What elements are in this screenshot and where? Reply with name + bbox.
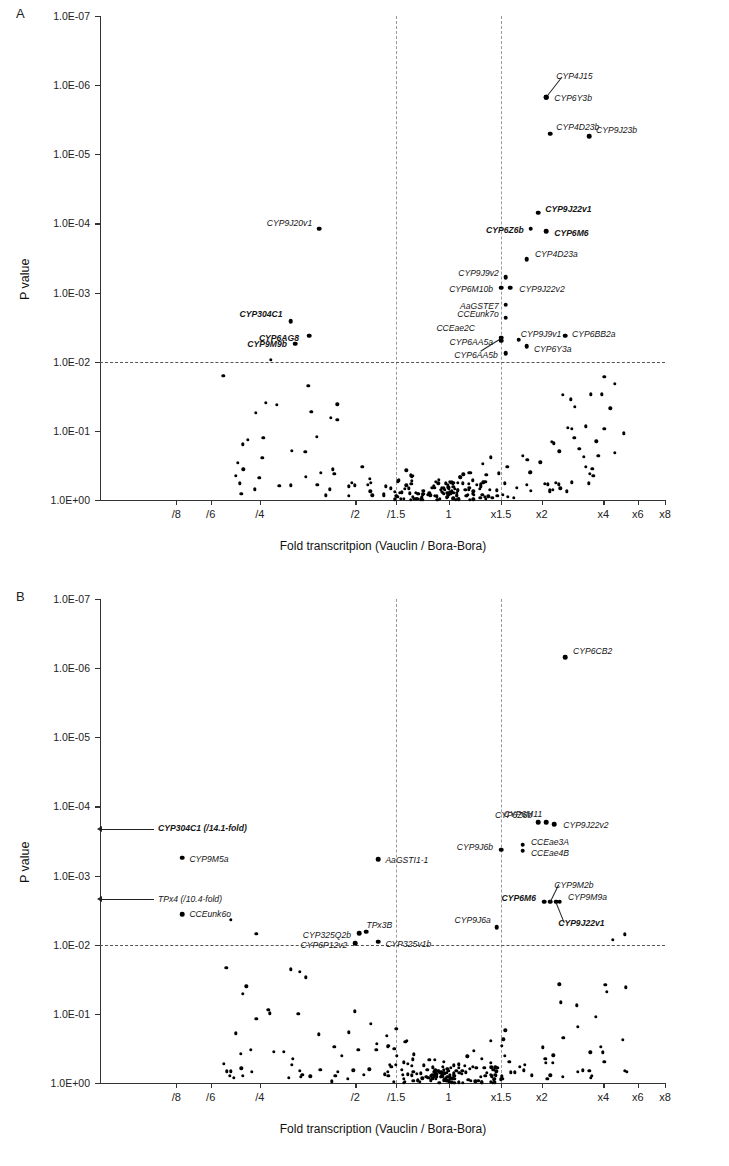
panel-b-data-point <box>541 1046 544 1049</box>
panel-b-data-point <box>489 1061 492 1064</box>
panel-a-x-tick-label: 1 <box>446 508 452 520</box>
panel-a-labeled-data-point <box>504 351 509 356</box>
panel-a-data-point <box>521 454 524 457</box>
panel-b-data-point <box>232 1076 235 1079</box>
panel-a-data-point <box>264 401 267 404</box>
panel-b-data-point <box>434 1077 437 1080</box>
panel-b-labeled-data-point <box>180 912 185 917</box>
panel-a-data-point <box>240 492 243 495</box>
panel-a-data-point <box>428 494 431 497</box>
panel-a-data-point <box>246 438 249 441</box>
panel-a-data-point <box>462 473 465 476</box>
panel-b-data-point <box>624 986 627 989</box>
panel-a-y-tick-mark <box>95 16 100 17</box>
panel-b-gene-label: CCEae4B <box>531 848 569 858</box>
panel-a-data-point <box>570 427 573 430</box>
panel-b-data-point <box>494 1074 497 1077</box>
panel-a-gene-label: CYP9J23b <box>596 125 637 135</box>
panel-b-data-point <box>268 1012 271 1015</box>
panel-b-x-tick-label: x8 <box>659 1091 671 1103</box>
panel-b-labeled-data-point <box>357 931 362 936</box>
panel-b-data-point <box>421 1077 424 1080</box>
panel-b-y-tick-label: 1.0E-07 <box>53 593 90 605</box>
panel-a-data-point <box>324 494 327 497</box>
panel-b-gene-label: CYP9M9a <box>568 892 607 902</box>
panel-b-data-point <box>386 1070 389 1073</box>
panel-a-data-point <box>437 481 440 484</box>
panel-a-data-point <box>329 416 332 419</box>
panel-a-data-point <box>289 484 292 487</box>
panel-a-labeled-data-point <box>504 302 509 307</box>
panel-a-data-point <box>319 471 322 474</box>
panel-b-x-tick-mark <box>542 1083 543 1088</box>
panel-a-data-point <box>353 484 356 487</box>
panel-b-data-point <box>239 1052 242 1055</box>
panel-b-labeled-data-point <box>364 930 369 935</box>
panel-b-x-tick-mark <box>355 1083 356 1088</box>
panel-a-data-point <box>466 493 469 496</box>
panel-a-data-point <box>360 465 363 468</box>
panel-b-labeled-data-point <box>495 925 500 930</box>
panel-b-data-point <box>621 1038 624 1041</box>
panel-a-x-tick-mark <box>603 500 604 505</box>
panel-a-data-point <box>368 477 371 480</box>
panel-b-data-point <box>442 1060 445 1063</box>
panel-b: B 1.0E-071.0E-061.0E-051.0E-041.0E-031.0… <box>0 583 729 1166</box>
panel-b-data-point <box>457 1062 460 1065</box>
panel-b-x-axis-label: Fold transcription (Vauclin / Bora-Bora) <box>280 1122 487 1136</box>
panel-a-x-tick-mark <box>638 500 639 505</box>
panel-a-x-tick-mark <box>542 500 543 505</box>
panel-a-labeled-data-point <box>307 333 312 338</box>
panel-b-y-tick-mark <box>95 599 100 600</box>
panel-b-gene-label: AaGSTI1-1 <box>385 855 428 865</box>
panel-a-labeled-data-point <box>548 131 553 136</box>
panel-a-gene-label: CYP9J22v1 <box>545 204 591 214</box>
panel-b-data-point <box>228 1074 231 1077</box>
panel-b-offscale-arrow-line <box>102 899 154 900</box>
panel-a-y-tick-label: 1.0E-04 <box>53 217 90 229</box>
panel-b-data-point <box>225 966 228 969</box>
panel-b-data-point <box>229 1070 232 1073</box>
panel-b-x-tick-label: /8 <box>172 1091 181 1103</box>
panel-b-x-tick-mark <box>176 1083 177 1088</box>
panel-a-x-tick-mark <box>260 500 261 505</box>
panel-a-gene-label: CYP6M10b <box>449 284 493 294</box>
panel-a-data-point <box>481 462 484 465</box>
panel-b-data-point <box>594 1015 597 1018</box>
panel-a-y-tick-mark <box>95 154 100 155</box>
panel-b-labeled-data-point <box>499 847 504 852</box>
panel-b-data-point <box>575 1004 578 1007</box>
panel-a-letter: A <box>16 6 25 21</box>
panel-a-data-point <box>445 495 448 498</box>
panel-a-data-point <box>561 393 564 396</box>
panel-b-data-point <box>290 1063 293 1066</box>
panel-a-gene-label: CYP9J9v2 <box>458 268 499 278</box>
panel-b-data-point <box>576 1025 579 1028</box>
panel-a-y-tick-label: 1.0E-05 <box>53 148 90 160</box>
panel-b-data-point <box>369 1022 372 1025</box>
panel-b-data-point <box>429 1079 432 1082</box>
panel-a-labeled-data-point <box>499 285 504 290</box>
panel-b-x-tick-label: x4 <box>598 1091 610 1103</box>
panel-a-data-point <box>461 481 464 484</box>
panel-b-data-point <box>468 1067 471 1070</box>
panel-a-labeled-data-point <box>317 227 322 232</box>
panel-a-data-point <box>551 488 554 491</box>
panel-a-data-point <box>369 481 372 484</box>
panel-a-labeled-data-point <box>525 344 530 349</box>
panel-b-data-point <box>402 1061 405 1064</box>
panel-a-data-point <box>526 458 529 461</box>
panel-a-y-tick-label: 1.0E-07 <box>53 10 90 22</box>
panel-b-data-point <box>250 1070 253 1073</box>
panel-a-data-point <box>503 482 506 485</box>
panel-b-gene-label: TPx3B <box>366 920 392 930</box>
panel-b-y-tick-label: 1.0E-06 <box>53 662 90 674</box>
panel-a-data-point <box>506 495 509 498</box>
panel-a-x-tick-label: /8 <box>172 508 181 520</box>
panel-b-x-tick-label: x2 <box>536 1091 548 1103</box>
panel-a-data-point <box>483 480 486 483</box>
panel-b-data-point <box>589 1076 592 1079</box>
panel-b-x-tick-mark <box>501 1083 502 1088</box>
panel-a-data-point <box>409 482 412 485</box>
panel-a-x-tick-mark <box>355 500 356 505</box>
